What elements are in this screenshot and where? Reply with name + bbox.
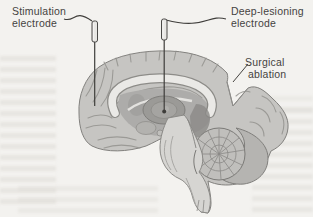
label-line: electrode: [12, 17, 66, 29]
figure-canvas: Stimulation electrode Deep-lesioning ele…: [0, 0, 313, 217]
brain-illustration: [0, 0, 313, 217]
label-line: Stimulation: [12, 5, 66, 17]
label-line: Surgical: [245, 56, 285, 68]
deep-lesioning-electrode-wire: [166, 18, 226, 23]
deep-lesioning-electrode-label: Deep-lesioning electrode: [231, 5, 304, 29]
label-line: ablation: [248, 68, 286, 80]
lesion-tip-dot: [162, 110, 166, 114]
surgical-ablation-label: Surgical ablation: [245, 56, 286, 80]
stimulation-electrode-label: Stimulation electrode: [12, 5, 66, 29]
label-line: electrode: [231, 17, 304, 29]
stimulation-electrode-wire: [64, 16, 92, 21]
label-line: Deep-lesioning: [231, 5, 304, 17]
